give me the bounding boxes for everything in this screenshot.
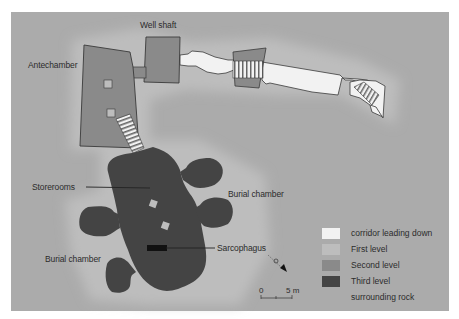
legend-item-second-level: Second level	[322, 259, 400, 271]
legend-swatch	[322, 276, 340, 287]
label-burial-chamber-right: Burial chamber	[228, 189, 284, 199]
legend-item-third-level: Third level	[322, 275, 390, 287]
label-antechamber: Antechamber	[28, 60, 77, 70]
legend-swatch	[322, 260, 340, 271]
pillar	[104, 80, 112, 88]
legend-swatch	[322, 228, 340, 239]
label-burial-chamber-left: Burial chamber	[45, 254, 101, 264]
legend-label: corridor leading down	[351, 228, 432, 238]
legend-label: Third level	[351, 276, 390, 286]
legend-label: Second level	[351, 260, 400, 270]
label-well-shaft: Well shaft	[140, 20, 176, 30]
sarcophagus	[147, 245, 167, 251]
tomb-plan-map	[0, 0, 459, 319]
well-shaft	[144, 37, 180, 83]
pillar	[107, 109, 115, 117]
stair-middle	[233, 61, 263, 78]
legend-swatch	[322, 244, 340, 255]
scale-start-label: 0	[259, 286, 263, 295]
legend-item-first-level: First level	[322, 243, 387, 255]
legend-item-corridor: corridor leading down	[322, 227, 432, 239]
legend-item-surrounding-rock: surrounding rock	[322, 291, 414, 303]
legend-label: First level	[351, 244, 387, 254]
legend-label: surrounding rock	[351, 292, 414, 302]
scale-end-label: 5 m	[286, 286, 299, 295]
legend-swatch	[322, 292, 340, 303]
label-sarcophagus: Sarcophagus	[217, 243, 266, 253]
label-storerooms: Storerooms	[32, 182, 75, 192]
